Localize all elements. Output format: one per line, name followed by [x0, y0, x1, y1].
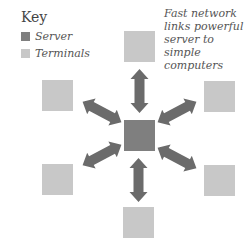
terminal-node-upper-left: [42, 80, 73, 111]
terminal-node-bottom: [123, 207, 154, 238]
arrow-upper-left: [78, 94, 125, 131]
server-node: [124, 120, 155, 151]
terminal-node-upper-right: [204, 81, 235, 112]
arrow-upper-right: [153, 94, 200, 131]
arrow-lower-left: [78, 137, 125, 174]
arrow-lower-right: [153, 140, 200, 177]
arrow-bottom: [130, 158, 148, 202]
arrow-top: [131, 69, 149, 113]
terminal-node-lower-right: [204, 165, 235, 196]
terminal-node-top: [124, 31, 155, 62]
terminal-node-lower-left: [42, 164, 73, 195]
